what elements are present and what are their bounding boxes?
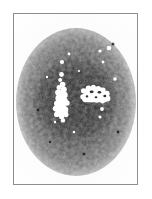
micrograph-plate-frame (13, 13, 138, 185)
edge-vignette (14, 14, 137, 184)
micrograph-image (14, 14, 137, 184)
figure-root (0, 0, 152, 199)
micrograph-plate-inner (14, 14, 137, 184)
figure-caption (36, 189, 108, 194)
